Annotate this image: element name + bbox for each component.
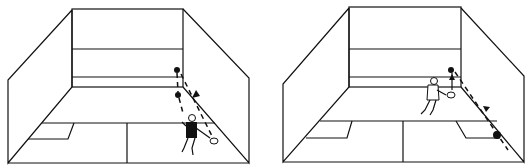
right-side-wall (461, 8, 524, 162)
service-box-left (306, 121, 352, 138)
ball-front (174, 67, 180, 73)
arrow-icon (483, 106, 490, 112)
court-left (8, 9, 249, 163)
ball-front (448, 67, 454, 73)
ball-path-side (181, 74, 214, 140)
ball-path-down (179, 98, 183, 113)
ball-path-vertical (177, 73, 178, 92)
left-side-wall (8, 10, 72, 163)
ball-drop (175, 92, 181, 98)
ball-landing (493, 131, 501, 139)
player-right (421, 78, 455, 116)
front-wall (349, 7, 461, 87)
squash-diagram (0, 0, 532, 168)
left-side-wall (283, 8, 349, 162)
arrow-icon (192, 90, 200, 98)
court-right (283, 7, 524, 162)
front-wall (72, 9, 183, 87)
